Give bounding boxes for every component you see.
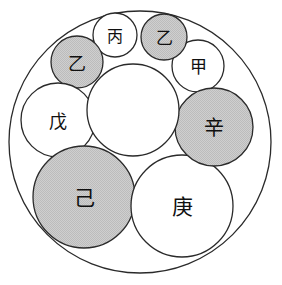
diagram-root: 甲乙丙乙戊己庚辛 — [0, 0, 282, 285]
circle-geng-label: 庚 — [172, 195, 193, 219]
central-circle — [87, 64, 179, 156]
circle-yi-upper-left-label: 乙 — [68, 53, 86, 74]
circle-yi-upper-right-label: 乙 — [156, 28, 173, 48]
circle-packing-figure: 甲乙丙乙戊己庚辛 — [0, 0, 282, 285]
circle-ji-label: 己 — [74, 186, 95, 210]
circle-xin-label: 辛 — [204, 116, 224, 140]
circles-layer — [9, 11, 271, 273]
circle-wu-label: 戊 — [49, 111, 67, 132]
circle-jia-label: 甲 — [190, 57, 207, 77]
circle-bing-label: 丙 — [107, 27, 123, 46]
